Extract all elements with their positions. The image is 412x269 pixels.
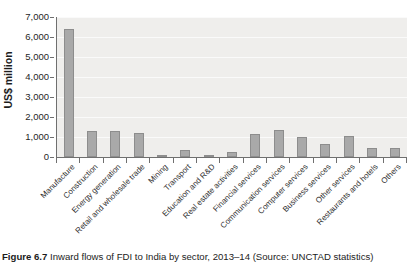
y-axis-tick-mark [50, 97, 54, 98]
y-axis-tick-mark [50, 117, 54, 118]
y-axis-tick-mark [50, 17, 54, 18]
bar [157, 155, 167, 157]
figure-caption: Figure 6.7 Inward flows of FDI to India … [2, 251, 412, 262]
figure-container: US$ million 01,0002,0003,0004,0005,0006,… [0, 0, 412, 269]
bar-series [57, 17, 407, 157]
bar [227, 152, 237, 157]
bar [110, 131, 120, 157]
plot-area [56, 17, 407, 158]
bar [390, 148, 400, 157]
y-axis-tick-mark [50, 37, 54, 38]
bar [180, 150, 190, 157]
y-axis-tick-label: 5,000 [25, 52, 49, 62]
y-axis-tick-label: 7,000 [25, 12, 49, 22]
bar [344, 136, 354, 157]
y-axis-title-text: US$ million [2, 51, 14, 108]
bar [64, 29, 74, 157]
bar [250, 134, 260, 157]
y-axis-tick-label: 4,000 [25, 72, 49, 82]
bar [367, 148, 377, 157]
y-axis-tick-label: 3,000 [25, 92, 49, 102]
bar [134, 133, 144, 157]
bar [204, 155, 214, 157]
y-axis-tick-label: 2,000 [25, 112, 49, 122]
y-axis-tick-group: 01,0002,0003,0004,0005,0006,0007,000 [14, 0, 54, 166]
bar [320, 144, 330, 157]
x-axis-tick-label: Others [380, 163, 403, 186]
bar [274, 130, 284, 157]
y-axis-tick-mark [50, 57, 54, 58]
y-axis-tick-mark [50, 77, 54, 78]
y-axis-tick-mark [50, 157, 54, 158]
x-axis-label-group: ManufactureConstructionEnergy generation… [0, 163, 412, 235]
y-axis-tick-label: 6,000 [25, 32, 49, 42]
y-axis-tick-label: 1,000 [25, 132, 49, 142]
y-axis-tick-label: 0 [44, 152, 49, 162]
bar [87, 131, 97, 157]
figure-caption-text: Inward flows of FDI to India by sector, … [50, 251, 373, 262]
bar [297, 137, 307, 157]
figure-caption-label: Figure 6.7 [2, 251, 47, 262]
y-axis-tick-mark [50, 137, 54, 138]
